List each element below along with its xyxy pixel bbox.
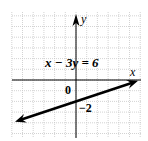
axes [12,14,141,138]
y-intercept-label: −2 [79,101,92,115]
origin-label: 0 [65,83,71,97]
graph-plot: y x x − 3y = 6 0 −2 [0,0,148,141]
equation-label: x − 3y = 6 [44,55,99,70]
y-axis-label: y [80,12,87,26]
x-axis-label: x [129,65,136,79]
equation-line-segment [21,83,133,120]
